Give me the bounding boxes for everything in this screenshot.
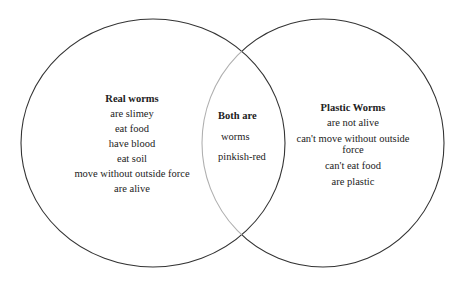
left-set-item: move without outside force xyxy=(60,166,204,181)
right-set-label: Plastic Worms are not alive can't move w… xyxy=(290,100,416,192)
left-set-title: Real worms xyxy=(60,91,204,106)
intersection-title: Both are xyxy=(218,108,268,123)
right-set-item: can't move without outside force xyxy=(290,133,416,155)
intersection-item: pinkish-red xyxy=(218,149,268,164)
right-set-title: Plastic Worms xyxy=(290,100,416,115)
left-set-item: eat soil xyxy=(60,151,204,166)
left-set-item: have blood xyxy=(60,136,204,151)
left-set-item: are alive xyxy=(60,181,204,196)
intersection-item: worms xyxy=(221,129,268,144)
left-set-item: are slimey xyxy=(60,106,204,121)
right-set-item: are plastic xyxy=(290,176,416,187)
right-set-item: can't eat food xyxy=(290,160,416,171)
left-set-item: eat food xyxy=(60,121,204,136)
left-set-label: Real worms are slimey eat food have bloo… xyxy=(60,91,204,196)
right-set-item: are not alive xyxy=(290,117,416,128)
intersection-label: Both are worms pinkish-red xyxy=(208,108,268,169)
